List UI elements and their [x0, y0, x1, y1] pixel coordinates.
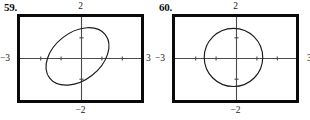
curve-circle-60 — [204, 28, 262, 86]
plot-area-59 — [20, 17, 141, 100]
axes-60 — [175, 17, 296, 100]
figure-60: 60. 2 −2 −3 3 — [155, 0, 310, 120]
axis-label-left-60: −3 — [155, 53, 165, 63]
axis-label-bottom-60: −2 — [155, 105, 310, 115]
curve-ellipse-59 — [35, 17, 120, 97]
plot-area-60 — [175, 17, 296, 100]
axis-label-right-59: 3 — [146, 53, 151, 63]
calculator-window-60 — [172, 14, 299, 103]
axis-label-bottom-59: −2 — [0, 105, 161, 115]
axis-label-left-59: −3 — [0, 53, 10, 63]
figure-59: 59. 2 −2 −3 3 — [0, 0, 155, 120]
axis-label-right-60: 3 — [307, 53, 310, 63]
calculator-window-59 — [17, 14, 144, 103]
axis-label-top-60: 2 — [155, 1, 310, 11]
axis-label-top-59: 2 — [0, 1, 161, 11]
